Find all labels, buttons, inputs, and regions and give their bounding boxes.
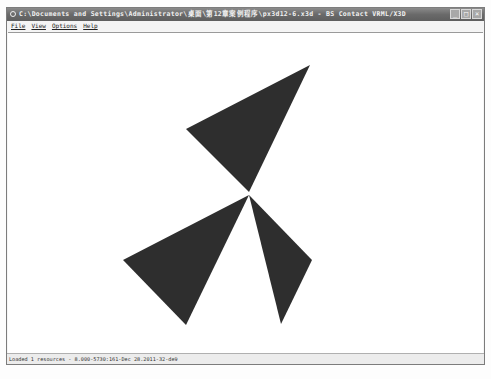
triangle-lower-right (249, 195, 312, 324)
minimize-button[interactable]: _ (450, 9, 460, 19)
menu-help[interactable]: Help (83, 21, 97, 31)
bs-contact-window: C:\Documents and Settings\Administrator\… (6, 7, 485, 365)
menu-view[interactable]: View (31, 21, 45, 31)
status-text: Loaded 1 resources - 8.000-5730:161-Dec … (9, 356, 178, 362)
window-controls: _ □ × (450, 9, 482, 19)
x3d-viewport[interactable] (8, 32, 483, 353)
close-button[interactable]: × (472, 9, 482, 19)
app-icon[interactable] (10, 11, 16, 17)
menu-options[interactable]: Options (52, 21, 77, 31)
scene-canvas[interactable] (8, 33, 485, 355)
maximize-button[interactable]: □ (461, 9, 471, 19)
menu-file[interactable]: File (11, 21, 25, 31)
menu-bar: File View Options Help (7, 21, 484, 31)
title-bar[interactable]: C:\Documents and Settings\Administrator\… (7, 8, 484, 21)
status-bar: Loaded 1 resources - 8.000-5730:161-Dec … (7, 353, 484, 364)
triangle-top (186, 65, 310, 192)
triangle-lower-left (123, 195, 249, 325)
window-title: C:\Documents and Settings\Administrator\… (19, 8, 406, 21)
